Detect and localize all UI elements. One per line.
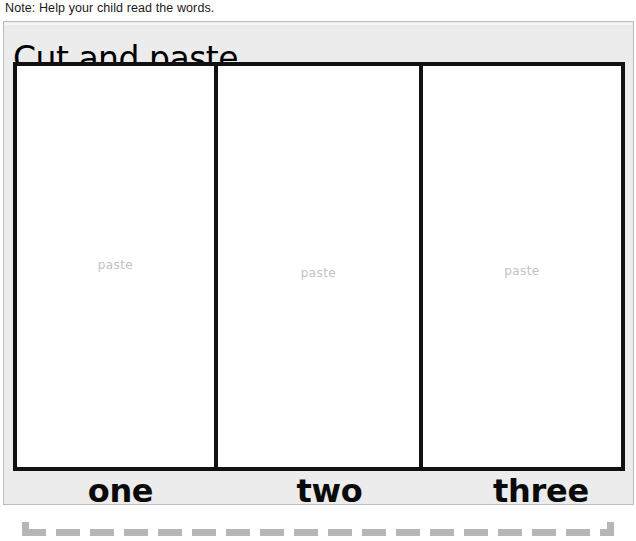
cut-line-end-tick-right — [607, 522, 614, 536]
cut-line-dashes — [22, 529, 614, 536]
panel-top-highlight — [5, 23, 632, 25]
word-label-one: one — [88, 474, 154, 508]
worksheet-panel: Cut and paste. paste paste paste one two… — [3, 21, 634, 505]
paste-box-row: paste paste paste — [13, 62, 625, 471]
paste-box-three[interactable]: paste — [419, 62, 625, 471]
parent-note: Note: Help your child read the words. — [5, 1, 214, 15]
paste-placeholder-one: paste — [98, 258, 133, 272]
word-label-three: three — [493, 474, 589, 508]
paste-placeholder-three: paste — [504, 264, 539, 278]
paste-placeholder-two: paste — [301, 266, 336, 280]
word-label-two: two — [297, 474, 363, 508]
paste-box-one[interactable]: paste — [13, 62, 218, 471]
cut-line-zone — [0, 505, 636, 541]
paste-box-two[interactable]: paste — [214, 62, 423, 471]
